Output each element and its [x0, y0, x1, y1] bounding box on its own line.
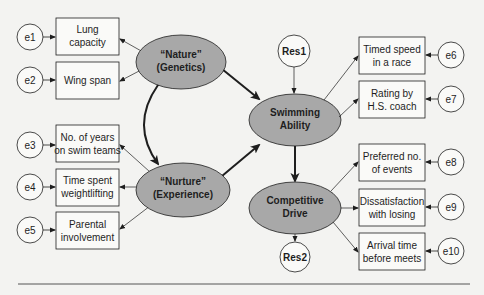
indicator-timed-speed: Timed speed in a race — [359, 37, 425, 74]
svg-text:Dissatisfaction: Dissatisfaction — [360, 196, 424, 207]
svg-text:No. of years: No. of years — [61, 132, 115, 143]
svg-text:e1: e1 — [24, 32, 36, 43]
error-e2: e2 — [17, 67, 43, 93]
svg-text:Parental: Parental — [69, 219, 106, 230]
indicator-years-on-swim-teams: No. of years on swim teams — [54, 125, 121, 162]
error-e9: e9 — [438, 194, 464, 220]
residual-res1: Res1 — [278, 35, 310, 67]
svg-text:Wing span: Wing span — [64, 75, 111, 86]
svg-text:“Nature”: “Nature” — [160, 49, 202, 60]
svg-text:Competitive: Competitive — [266, 195, 324, 206]
svg-text:Time spent: Time spent — [63, 175, 112, 186]
svg-text:H.S. coach: H.S. coach — [368, 101, 417, 112]
svg-text:on swim teams: on swim teams — [54, 145, 121, 156]
svg-text:Res1: Res1 — [282, 46, 306, 57]
error-e3: e3 — [17, 132, 43, 158]
svg-text:Res2: Res2 — [283, 252, 307, 263]
indicator-lung-capacity: Lung capacity — [56, 18, 119, 55]
latent-nurture: “Nurture” (Experience) — [136, 163, 230, 217]
svg-text:Drive: Drive — [282, 208, 307, 219]
svg-text:e4: e4 — [24, 182, 36, 193]
svg-text:e2: e2 — [24, 75, 36, 86]
svg-text:e5: e5 — [24, 225, 36, 236]
svg-text:e7: e7 — [445, 94, 457, 105]
svg-text:Arrival time: Arrival time — [367, 240, 417, 251]
error-e4: e4 — [17, 174, 43, 200]
svg-text:with losing: with losing — [368, 209, 416, 220]
covariance-arrow — [144, 85, 158, 164]
indicator-time-weightlifting: Time spent weightlifting — [56, 169, 119, 206]
svg-text:Rating by: Rating by — [371, 88, 413, 99]
svg-text:involvement: involvement — [61, 232, 115, 243]
svg-text:of events: of events — [372, 164, 413, 175]
svg-text:Ability: Ability — [280, 120, 311, 131]
svg-text:e10: e10 — [443, 246, 460, 257]
svg-text:e9: e9 — [445, 202, 457, 213]
indicator-dissatisfaction-losing: Dissatisfaction with losing — [359, 189, 425, 226]
latent-competitive-drive: Competitive Drive — [249, 182, 341, 234]
svg-text:Preferred no.: Preferred no. — [363, 151, 421, 162]
sem-diagram: e1 e2 e3 e4 e5 Lung capacity Wing span N… — [0, 0, 484, 295]
svg-text:(Experience): (Experience) — [153, 189, 213, 200]
latent-swimming-ability: Swimming Ability — [249, 94, 341, 146]
error-e8: e8 — [438, 149, 464, 175]
indicator-preferred-events: Preferred no. of events — [359, 144, 425, 181]
residual-res2: Res2 — [280, 242, 310, 272]
indicator-parental-involvement: Parental involvement — [56, 212, 119, 249]
svg-text:(Genetics): (Genetics) — [157, 62, 206, 73]
svg-text:e6: e6 — [445, 50, 457, 61]
svg-text:Swimming: Swimming — [270, 107, 320, 118]
indicator-wing-span: Wing span — [56, 62, 119, 99]
indicator-rating-by-coach: Rating by H.S. coach — [359, 81, 425, 118]
svg-text:before meets: before meets — [363, 253, 421, 264]
error-e5: e5 — [17, 217, 43, 243]
svg-text:capacity: capacity — [69, 37, 106, 48]
error-e6: e6 — [438, 42, 464, 68]
error-e7: e7 — [438, 86, 464, 112]
svg-text:in a race: in a race — [373, 57, 412, 68]
svg-text:“Nurture”: “Nurture” — [160, 176, 206, 187]
svg-text:Lung: Lung — [76, 24, 98, 35]
svg-text:e8: e8 — [445, 157, 457, 168]
error-e10: e10 — [438, 238, 464, 264]
svg-text:Timed speed: Timed speed — [363, 44, 420, 55]
error-e1: e1 — [17, 24, 43, 50]
indicator-arrival-time: Arrival time before meets — [359, 233, 425, 270]
svg-text:weightlifting: weightlifting — [60, 188, 113, 199]
latent-nature: “Nature” (Genetics) — [136, 35, 226, 89]
svg-text:e3: e3 — [24, 140, 36, 151]
